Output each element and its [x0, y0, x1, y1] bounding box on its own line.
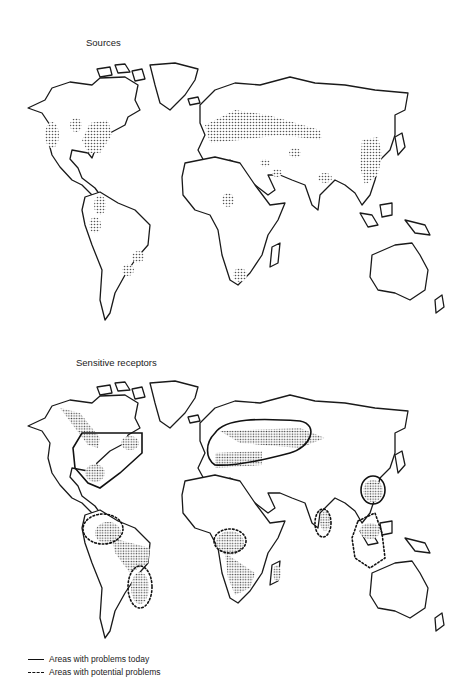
legend: Areas with problems today Areas with pot…: [28, 653, 161, 679]
world-map-sensitive-receptors: [0, 373, 469, 648]
dashed-line-icon: [28, 672, 44, 673]
legend-item-problems-today: Areas with problems today: [28, 653, 161, 666]
landmasses: [28, 63, 444, 320]
panel-title-sensitive-receptors: Sensitive receptors: [76, 357, 157, 368]
solid-line-icon: [28, 659, 44, 660]
panel-title-sources: Sources: [86, 37, 121, 48]
legend-label: Areas with potential problems: [49, 666, 161, 679]
world-map-sources: [0, 55, 469, 325]
landmasses: [28, 381, 444, 638]
legend-item-potential-problems: Areas with potential problems: [28, 666, 161, 679]
legend-label: Areas with problems today: [49, 653, 149, 666]
